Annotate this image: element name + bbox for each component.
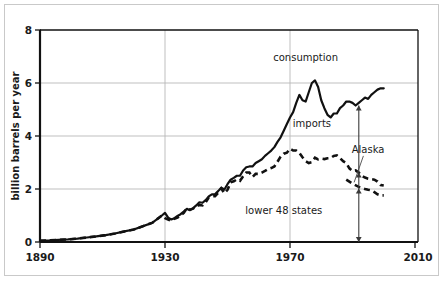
ytick-label-0: 0: [25, 236, 32, 248]
ytick-label-2: 2: [25, 183, 32, 195]
y-axis-title: billion barrels per year: [10, 71, 21, 200]
annotation-consumption: consumption: [273, 52, 338, 63]
ytick-label-8: 8: [25, 24, 32, 36]
chart-figure: 8 6 4 2 0 1890 1930 1970 2010 billion ba…: [0, 0, 443, 284]
ytick-label-6: 6: [25, 77, 32, 89]
annotation-lower-48-states: lower 48 states: [245, 205, 322, 216]
xtick-label-1930: 1930: [150, 251, 179, 263]
oil-consumption-production-chart: 8 6 4 2 0 1890 1930 1970 2010 billion ba…: [0, 0, 443, 284]
annotation-imports: imports: [293, 118, 331, 129]
xtick-label-2010: 2010: [403, 251, 432, 263]
ytick-label-4: 4: [25, 130, 32, 142]
xtick-label-1970: 1970: [275, 251, 304, 263]
annotation-alaska: Alaska: [352, 144, 385, 155]
xtick-label-1890: 1890: [25, 251, 54, 263]
